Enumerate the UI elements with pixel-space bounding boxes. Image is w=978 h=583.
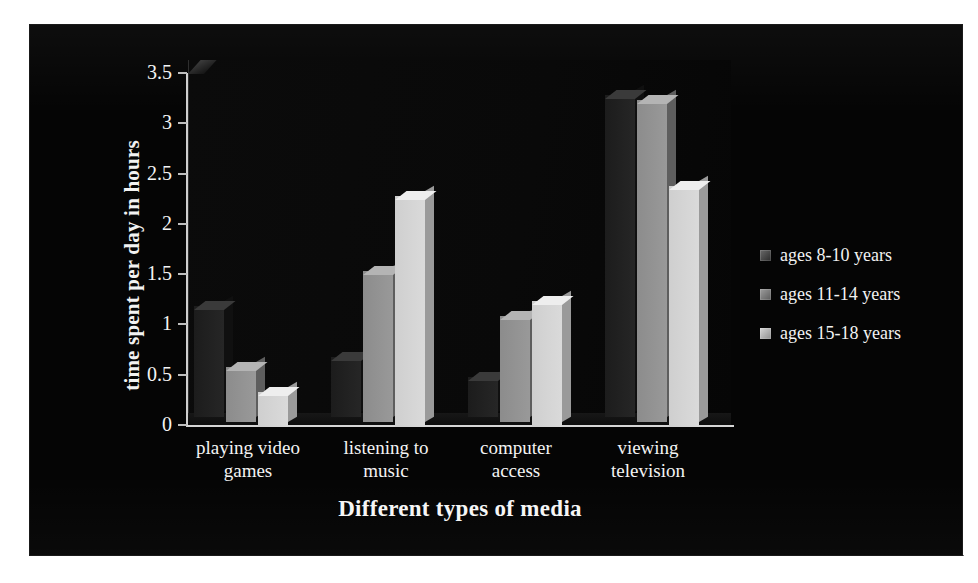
- bar-face: [532, 301, 562, 427]
- category-label-line: playing video: [173, 436, 323, 459]
- bar: [194, 306, 224, 417]
- bar: [637, 100, 667, 422]
- category-label-line: access: [441, 459, 591, 482]
- bar-group: [194, 73, 319, 427]
- y-axis-tick-label-wrap: 0.5: [116, 364, 172, 384]
- bar-face: [226, 367, 256, 422]
- bar: [395, 196, 425, 427]
- bar: [226, 367, 256, 422]
- category-label-line: games: [173, 459, 323, 482]
- bar: [500, 316, 530, 422]
- y-axis-tick-label: 3: [120, 112, 172, 132]
- legend-item[interactable]: ages 15-18 years: [760, 323, 960, 343]
- x-axis-category-label: listening tomusic: [311, 436, 461, 482]
- y-axis-tick-label-wrap: 0: [116, 414, 172, 434]
- bar-face: [395, 196, 425, 427]
- plot-area: 00.511.522.533.5 playing videogamesliste…: [0, 0, 978, 583]
- legend-item-label: ages 8-10 years: [780, 246, 892, 264]
- bar: [258, 392, 288, 427]
- y-axis-tick-label: 1.5: [120, 263, 172, 283]
- bar: [468, 377, 498, 417]
- y-axis-tick-label: 3.5: [120, 62, 172, 82]
- bar-face: [258, 392, 288, 427]
- bar-group: [331, 73, 456, 427]
- category-label-line: television: [573, 459, 723, 482]
- y-axis-tick-label: 2.5: [120, 163, 172, 183]
- x-axis-category-labels: playing videogameslistening tomusiccompu…: [186, 436, 734, 492]
- x-axis-category-label: computeraccess: [441, 436, 591, 482]
- bar-face: [194, 306, 224, 417]
- bar-group: [605, 73, 730, 427]
- y-axis-tick-label-wrap: 1: [116, 313, 172, 333]
- category-label-line: computer: [441, 436, 591, 459]
- y-axis-tick-label: 0.5: [120, 364, 172, 384]
- bar-side: [562, 291, 571, 422]
- y-axis-tick-label: 0: [120, 414, 172, 434]
- bar-face: [500, 316, 530, 422]
- y-axis-tick-label-wrap: 1.5: [116, 263, 172, 283]
- bar-face: [637, 100, 667, 422]
- y-axis-tick-label-wrap: 3: [116, 112, 172, 132]
- bar: [605, 95, 635, 417]
- legend-item-label: ages 15-18 years: [780, 324, 901, 342]
- legend-swatch-icon: [760, 250, 771, 261]
- legend-item-label: ages 11-14 years: [780, 285, 900, 303]
- legend-swatch-icon: [760, 289, 771, 300]
- chart-screenshot: time spent per day in hours 00.511.522.5…: [0, 0, 978, 583]
- legend-item[interactable]: ages 8-10 years: [760, 245, 960, 265]
- bar: [532, 301, 562, 427]
- bar: [669, 186, 699, 427]
- bar-side: [699, 175, 708, 422]
- legend-item[interactable]: ages 11-14 years: [760, 284, 960, 304]
- category-label-line: listening to: [311, 436, 461, 459]
- y-axis-tick-label-wrap: 2.5: [116, 163, 172, 183]
- chart-legend: ages 8-10 yearsages 11-14 yearsages 15-1…: [760, 245, 960, 362]
- bar-face: [363, 271, 393, 422]
- bar-face: [331, 357, 361, 417]
- bar-side: [425, 185, 434, 422]
- x-axis-category-label: viewingtelevision: [573, 436, 723, 482]
- bar: [331, 357, 361, 417]
- x-axis-title: Different types of media: [186, 496, 734, 522]
- bar-group: [468, 73, 593, 427]
- bar-face: [468, 377, 498, 417]
- bar-groups: [186, 73, 734, 427]
- y-axis-tick-label: 1: [120, 313, 172, 333]
- bar: [363, 271, 393, 422]
- y-axis-tick-label-wrap: 3.5: [116, 62, 172, 82]
- bar-face: [669, 186, 699, 427]
- legend-swatch-icon: [760, 328, 771, 339]
- category-label-line: music: [311, 459, 461, 482]
- y-axis-tick-label: 2: [120, 213, 172, 233]
- bar-face: [605, 95, 635, 417]
- y-axis-tick-label-wrap: 2: [116, 213, 172, 233]
- category-label-line: viewing: [573, 436, 723, 459]
- x-axis-category-label: playing videogames: [173, 436, 323, 482]
